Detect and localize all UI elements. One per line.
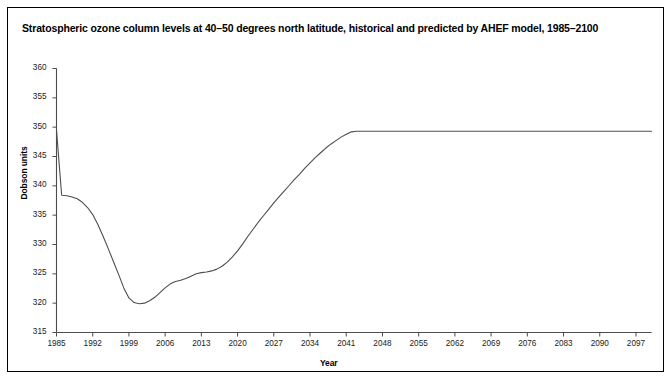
x-tick-label-2006: 2006 xyxy=(148,339,182,348)
y-tick-label-355: 355 xyxy=(21,92,47,101)
y-tick-label-335: 335 xyxy=(21,210,47,219)
y-tick-label-340: 340 xyxy=(21,180,47,189)
y-tick-label-325: 325 xyxy=(21,268,47,277)
x-tick-label-2020: 2020 xyxy=(221,339,255,348)
x-tick-label-2062: 2062 xyxy=(438,339,472,348)
y-tick-label-330: 330 xyxy=(21,239,47,248)
axis-layer xyxy=(57,69,652,333)
x-tick-label-2097: 2097 xyxy=(619,339,653,348)
x-tick-label-1999: 1999 xyxy=(112,339,146,348)
x-tick-label-2034: 2034 xyxy=(293,339,327,348)
tick-layer xyxy=(53,69,636,337)
y-tick-label-350: 350 xyxy=(21,122,47,131)
x-tick-label-2055: 2055 xyxy=(402,339,436,348)
x-tick-label-2048: 2048 xyxy=(365,339,399,348)
x-tick-label-1992: 1992 xyxy=(76,339,110,348)
x-tick-label-2013: 2013 xyxy=(184,339,218,348)
ozone-series-line xyxy=(57,130,652,304)
x-tick-label-2083: 2083 xyxy=(547,339,581,348)
x-tick-label-2090: 2090 xyxy=(583,339,617,348)
line-chart-svg xyxy=(0,0,671,379)
y-axis-label: Dobson units xyxy=(19,133,29,213)
x-tick-label-1985: 1985 xyxy=(40,339,74,348)
x-axis-label: Year xyxy=(320,358,338,368)
y-tick-label-315: 315 xyxy=(21,327,47,336)
x-tick-label-2076: 2076 xyxy=(510,339,544,348)
x-tick-label-2027: 2027 xyxy=(257,339,291,348)
chart-figure: Stratospheric ozone column levels at 40–… xyxy=(0,0,671,379)
x-tick-label-2041: 2041 xyxy=(329,339,363,348)
y-tick-label-320: 320 xyxy=(21,298,47,307)
plot-area: Dobson units Year 3153203253303353403453… xyxy=(0,0,671,379)
y-tick-label-360: 360 xyxy=(21,63,47,72)
x-tick-label-2069: 2069 xyxy=(474,339,508,348)
y-tick-label-345: 345 xyxy=(21,151,47,160)
